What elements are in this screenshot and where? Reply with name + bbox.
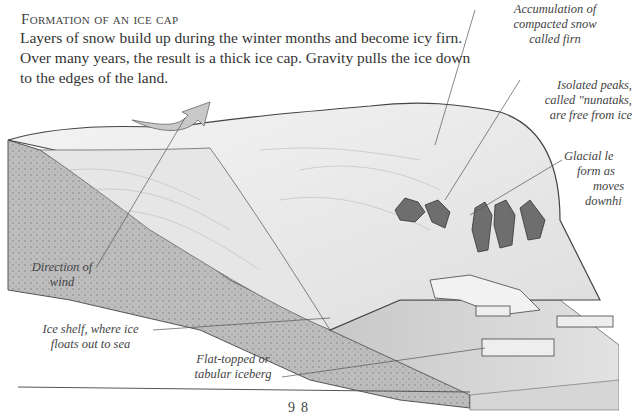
page-number: 98 — [288, 400, 314, 416]
label-nunataks-line: called "nunataks, — [522, 93, 632, 108]
label-ice-shelf: Ice shelf, where ice floats out to sea — [28, 322, 153, 352]
label-firn-line: compacted snow — [490, 17, 620, 32]
label-glacial-line: Glacial le — [564, 149, 625, 164]
iceberg-small — [476, 306, 510, 316]
label-glacial-line: downhi — [585, 194, 625, 209]
label-nunataks-line: are free from ice — [522, 108, 632, 123]
label-nunataks-line: Isolated peaks, — [522, 78, 632, 93]
label-glacial-line: form as — [577, 164, 625, 179]
label-iceberg: Flat-topped or tabular iceberg — [188, 352, 278, 382]
label-glacial: Glacial le form as moves downhi — [555, 149, 625, 209]
label-firn: Accumulation of compacted snow called fi… — [490, 2, 620, 47]
label-firn-line: Accumulation of — [490, 2, 620, 17]
label-iceberg-line: tabular iceberg — [188, 367, 278, 382]
iceberg-right — [557, 316, 613, 327]
intro-paragraph: Layers of snow build up during the winte… — [20, 28, 480, 88]
label-nunataks: Isolated peaks, called "nunataks, are fr… — [522, 78, 632, 123]
label-iceberg-line: Flat-topped or — [188, 352, 278, 367]
label-wind: Direction of wind — [22, 260, 102, 290]
label-firn-line: called firn — [490, 32, 620, 47]
label-ice-shelf-line: floats out to sea — [28, 337, 153, 352]
label-glacial-line: moves — [593, 179, 625, 194]
section-heading: Formation of an ice cap — [21, 11, 178, 28]
label-ice-shelf-line: Ice shelf, where ice — [28, 322, 153, 337]
label-wind-line: wind — [22, 275, 102, 290]
label-wind-line: Direction of — [22, 260, 102, 275]
iceberg-tabular — [482, 339, 554, 356]
